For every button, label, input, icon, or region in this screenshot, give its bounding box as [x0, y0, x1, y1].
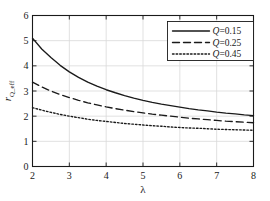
chart-legend: Q=0.15Q=0.25Q=0.45 [168, 22, 254, 61]
ytick-label: 2 [24, 111, 29, 122]
ytick-label: 5 [24, 35, 29, 46]
ytick-label: 3 [24, 86, 29, 97]
ytick-label: 4 [24, 60, 29, 71]
ytick-label: 6 [24, 10, 29, 21]
ytick-label: 1 [24, 136, 29, 147]
xtick-label: 4 [104, 170, 109, 181]
xtick-label: 7 [214, 170, 219, 181]
legend-label-2: Q=0.45 [213, 49, 242, 59]
x-axis-label: λ [140, 183, 146, 195]
xtick-label: 2 [30, 170, 35, 181]
legend-label-0: Q=0.15 [213, 26, 242, 36]
legend-label-1: Q=0.25 [213, 38, 242, 48]
xtick-label: 6 [177, 170, 182, 181]
chart-figure: 23456780123456 λrQ_eff Q=0.15Q=0.25Q=0.4… [0, 0, 270, 201]
xtick-label: 3 [67, 170, 72, 181]
xtick-label: 8 [251, 170, 256, 181]
xtick-label: 5 [141, 170, 146, 181]
line-chart: 23456780123456 λrQ_eff Q=0.15Q=0.25Q=0.4… [0, 0, 270, 201]
ytick-label: 0 [24, 161, 29, 172]
